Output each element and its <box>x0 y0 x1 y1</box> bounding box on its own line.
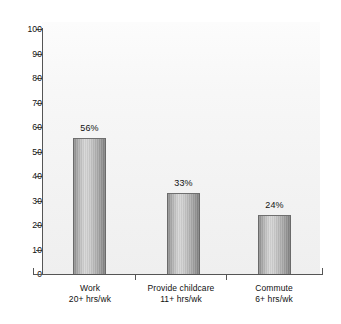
x-axis-line <box>33 274 323 275</box>
bar-value-label-commute: 24% <box>249 201 300 210</box>
y-axis-label: 20 <box>8 221 42 230</box>
x-axis-end-tick-right <box>322 268 323 275</box>
y-axis-label: 30 <box>8 197 42 206</box>
x-axis-separator-tick-1 <box>135 274 136 280</box>
y-axis-label: 100 <box>8 25 42 34</box>
y-axis-label: 60 <box>8 123 42 132</box>
bar-provide-childcare[interactable] <box>167 193 200 275</box>
category-label-line1: Provide childcare <box>148 283 215 293</box>
y-axis-label: 80 <box>8 74 42 83</box>
y-axis-label: 40 <box>8 172 42 181</box>
y-axis-label: 70 <box>8 99 42 108</box>
y-axis-label: 90 <box>8 50 42 59</box>
x-axis-end-tick-left <box>33 268 34 275</box>
x-axis-category-provide-childcare: Provide childcare 11+ hrs/wk <box>136 283 226 305</box>
y-axis-label: 50 <box>8 148 42 157</box>
category-label-line2: 6+ hrs/wk <box>229 294 319 305</box>
bar-value-label-work: 56% <box>64 124 115 133</box>
category-label-line2: 20+ hrs/wk <box>45 294 135 305</box>
bar-chart: 100 90 80 70 60 50 40 30 20 10 0 <box>0 0 341 324</box>
category-label-line2: 11+ hrs/wk <box>136 294 226 305</box>
bar-value-label-provide-childcare: 33% <box>158 179 209 188</box>
category-label-line1: Work <box>80 283 100 293</box>
y-axis-line <box>42 28 43 275</box>
y-axis-label: 10 <box>8 246 42 255</box>
bar-commute[interactable] <box>258 215 291 275</box>
x-axis-category-work: Work 20+ hrs/wk <box>45 283 135 305</box>
x-axis-category-commute: Commute 6+ hrs/wk <box>229 283 319 305</box>
bar-work[interactable] <box>73 138 106 275</box>
category-label-line1: Commute <box>255 283 293 293</box>
x-axis-separator-tick-2 <box>226 274 227 280</box>
